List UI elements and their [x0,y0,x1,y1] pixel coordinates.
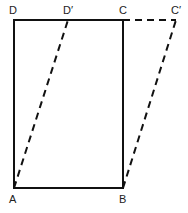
label-b: B [119,194,126,205]
label-d: D [9,5,17,16]
rectangle-abcd [14,20,123,188]
dashed-line-bc-prime [123,20,176,188]
label-c: C [119,5,127,16]
geometry-figure [0,0,188,213]
label-c-prime: C′ [171,5,181,16]
dashed-line-ad-prime [14,20,68,188]
label-a: A [9,194,16,205]
label-d-prime: D′ [63,5,73,16]
